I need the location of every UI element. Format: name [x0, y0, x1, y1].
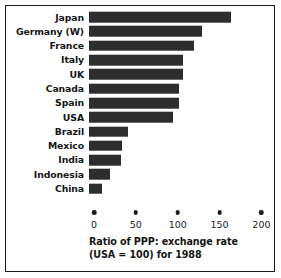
axis-tick-dot	[134, 210, 139, 215]
bar-category-label: Germany (W)	[6, 27, 89, 36]
bar-category-label: India	[6, 155, 89, 164]
bar-row: Japan	[6, 10, 276, 24]
bar	[89, 183, 102, 194]
axis-tick-dot	[217, 210, 222, 215]
bar-category-label: Canada	[6, 84, 89, 93]
bar-row: China	[6, 182, 276, 196]
bar-row: Italy	[6, 53, 276, 67]
bar-row: USA	[6, 110, 276, 124]
axis-tick-dot	[259, 210, 264, 215]
bar-track	[89, 153, 276, 167]
bar-category-label: Italy	[6, 55, 89, 64]
caption-line-2: (USA = 100) for 1988	[89, 249, 274, 262]
bar	[89, 169, 110, 180]
bar	[89, 98, 179, 109]
bar-category-label: Japan	[6, 13, 89, 22]
bar-category-label: Indonesia	[6, 170, 89, 179]
bar-row: Germany (W)	[6, 24, 276, 38]
bar-category-label: China	[6, 184, 89, 193]
axis-tick-label: 150	[211, 220, 229, 230]
bar	[89, 55, 183, 66]
axis-tick-label: 50	[130, 220, 142, 230]
bar-track	[89, 81, 276, 95]
bar-track	[89, 39, 276, 53]
bar	[89, 112, 173, 123]
bar-track	[89, 53, 276, 67]
bar-track	[89, 139, 276, 153]
plot-area: JapanGermany (W)FranceItalyUKCanadaSpain…	[6, 6, 276, 273]
bar-track	[89, 96, 276, 110]
axis-tick-label: 0	[91, 220, 97, 230]
bar-category-label: UK	[6, 70, 89, 79]
bar-row: Spain	[6, 96, 276, 110]
bar-track	[89, 167, 276, 181]
bar-category-label: France	[6, 41, 89, 50]
bar-category-label: Spain	[6, 98, 89, 107]
chart-caption: Ratio of PPP: exchange rate (USA = 100) …	[89, 236, 274, 262]
bar-row: Canada	[6, 81, 276, 95]
bar-track	[89, 124, 276, 138]
bar-category-label: Brazil	[6, 127, 89, 136]
chart-figure: JapanGermany (W)FranceItalyUKCanadaSpain…	[0, 0, 281, 278]
bar-row: UK	[6, 67, 276, 81]
axis-tick-label: 200	[252, 220, 270, 230]
bar-row: India	[6, 153, 276, 167]
bar-category-label: USA	[6, 113, 89, 122]
bar-row: Brazil	[6, 124, 276, 138]
bar-track	[89, 110, 276, 124]
bar-track	[89, 67, 276, 81]
bar-row: France	[6, 39, 276, 53]
axis-tick-dot	[175, 210, 180, 215]
x-axis: 050100150200	[6, 202, 276, 236]
bar	[89, 83, 179, 94]
bar-rows: JapanGermany (W)FranceItalyUKCanadaSpain…	[6, 10, 276, 196]
bar	[89, 155, 121, 166]
bar-track	[89, 24, 276, 38]
bar	[89, 69, 183, 80]
bar-row: Mexico	[6, 139, 276, 153]
axis-tick-dot	[92, 210, 97, 215]
caption-line-1: Ratio of PPP: exchange rate	[89, 236, 274, 249]
bar	[89, 12, 231, 23]
axis-tick-labels: 050100150200	[94, 220, 274, 234]
bar	[89, 26, 202, 37]
bar-category-label: Mexico	[6, 141, 89, 150]
bar-track	[89, 182, 276, 196]
bar	[89, 40, 194, 51]
axis-tick-label: 100	[169, 220, 187, 230]
bar	[89, 141, 122, 152]
bar	[89, 126, 128, 137]
chart-frame: JapanGermany (W)FranceItalyUKCanadaSpain…	[5, 5, 275, 272]
bar-track	[89, 10, 276, 24]
bar-row: Indonesia	[6, 167, 276, 181]
